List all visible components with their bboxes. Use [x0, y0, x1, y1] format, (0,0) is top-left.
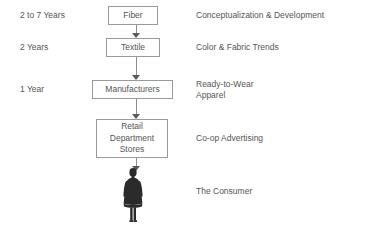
arrow-fiber-to-textile: [132, 25, 141, 38]
timeline-label-textile: 2 Years: [20, 42, 48, 53]
timeline-label-fiber: 2 to 7 Years: [20, 10, 65, 21]
description-label-retail: Co-op Advertising: [196, 133, 263, 144]
flow-box-fiber: Fiber: [108, 6, 158, 25]
arrow-textile-to-manufacturers: [132, 57, 141, 80]
flow-box-manufacturers: Manufacturers: [92, 80, 173, 99]
description-label-textile: Color & Fabric Trends: [196, 42, 279, 53]
description-label-consumer: The Consumer: [196, 186, 252, 197]
flow-box-textile: Textile: [106, 38, 160, 57]
supply-chain-flow-diagram: 2 to 7 Years 2 Years 1 Year Fiber Textil…: [0, 0, 378, 227]
description-label-fiber: Conceptualization & Development: [196, 10, 324, 21]
flow-box-retail-department-stores: Retail Department Stores: [96, 119, 168, 158]
timeline-label-manufacturers: 1 Year: [20, 84, 44, 95]
description-label-manufacturers: Ready-to-Wear Apparel: [196, 79, 253, 101]
consumer-silhouette-icon: [117, 166, 149, 224]
arrow-manufacturers-to-retail: [132, 99, 141, 119]
